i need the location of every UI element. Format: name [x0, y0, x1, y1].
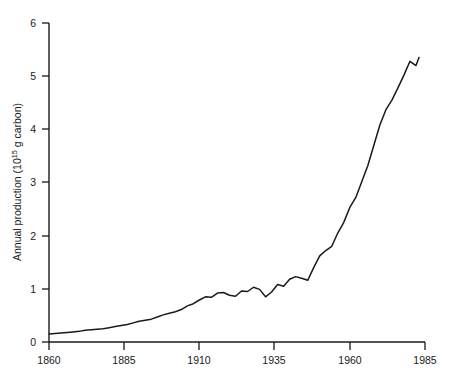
y-axis-title: Annual production (1015 g carbon) — [10, 103, 23, 261]
y-axis: 6 5 4 3 2 1 0 — [30, 17, 49, 348]
y-axis-title-units: g carbon) — [11, 103, 23, 147]
y-axis-title-exponent: 15 — [10, 150, 19, 158]
x-tick-label: 1910 — [187, 354, 211, 366]
data-series-group — [49, 58, 419, 334]
chart-figure: Annual production (1015 g carbon) 6 5 4 … — [0, 0, 453, 384]
x-tick-label: 1960 — [338, 354, 362, 366]
series-line-annual-carbon-production — [49, 58, 419, 334]
y-tick-label: 1 — [30, 283, 36, 295]
x-tick-label: 1860 — [37, 354, 61, 366]
y-tick-label: 3 — [30, 176, 36, 188]
x-tick-label: 1935 — [262, 354, 286, 366]
y-tick-group — [42, 23, 49, 342]
y-tick-labels: 6 5 4 3 2 1 0 — [30, 17, 36, 348]
x-axis: 1860 1885 1910 1935 1960 1985 — [37, 342, 437, 366]
svg-text:Annual production (1015 g carb: Annual production (1015 g carbon) — [10, 103, 23, 261]
x-tick-labels: 1860 1885 1910 1935 1960 1985 — [37, 354, 437, 366]
y-tick-label: 0 — [30, 336, 36, 348]
y-tick-label: 2 — [30, 230, 36, 242]
y-tick-label: 4 — [30, 123, 36, 135]
y-tick-label: 6 — [30, 17, 36, 29]
y-tick-label: 5 — [30, 70, 36, 82]
x-tick-label: 1985 — [413, 354, 437, 366]
x-tick-group — [49, 342, 425, 350]
y-axis-title-main: Annual production (10 — [11, 158, 23, 261]
line-chart-svg: Annual production (1015 g carbon) 6 5 4 … — [0, 0, 453, 384]
x-tick-label: 1885 — [112, 354, 136, 366]
